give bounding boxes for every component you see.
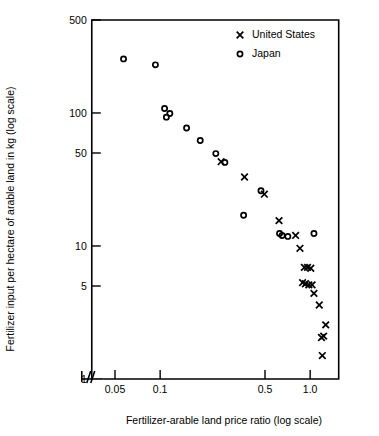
data-point-japan [184,125,189,130]
data-point-united-states [316,302,323,309]
data-point-united-states [276,217,283,224]
x-tick-label: 0.5 [258,383,273,395]
scatter-plot-svg: 1510501005000.050.10.51.0 United StatesJ… [0,0,379,436]
y-tick-label: 1 [81,373,87,385]
axis-tick-labels: 1510501005000.050.10.51.0 [69,14,317,395]
data-point-japan [164,115,169,120]
data-point-japan [121,56,126,61]
data-point-japan [258,188,263,193]
x-axis-title: Fertilizer-arable land price ratio (log … [126,414,322,426]
legend-marker-o-icon [237,51,242,56]
data-point-united-states [292,232,299,239]
legend-marker-x-icon [237,32,244,39]
data-point-japan [162,106,167,111]
x-tick-label: 0.05 [105,383,126,395]
legend-label: Japan [252,47,281,59]
data-points [121,56,329,359]
data-point-japan [241,213,246,218]
y-tick-label: 50 [75,147,87,159]
y-tick-label: 100 [69,107,87,119]
data-point-japan [153,62,158,67]
y-tick-label: 5 [81,280,87,292]
x-tick-label: 0.1 [153,383,168,395]
chart-legend: United StatesJapan [237,28,315,59]
data-point-japan [222,160,227,165]
legend-label: United States [252,28,315,40]
data-point-united-states [241,174,248,181]
data-point-japan [198,138,203,143]
x-tick-label: 1.0 [303,383,318,395]
scatter-chart-figure: 1510501005000.050.10.51.0 United StatesJ… [0,0,379,436]
y-tick-label: 10 [75,240,87,252]
y-tick-label: 500 [69,14,87,26]
data-point-united-states [297,245,304,252]
y-axis-title: Fertilizer input per hectare of arable l… [4,87,16,352]
data-point-united-states [261,191,268,198]
data-point-japan [213,151,218,156]
data-point-united-states [320,333,327,340]
data-point-japan [311,231,316,236]
axis-ticks [92,20,310,379]
plot-axes [82,20,339,383]
data-point-united-states [311,290,318,297]
data-point-united-states [322,322,329,329]
data-point-united-states [319,352,326,359]
data-point-japan [285,234,290,239]
